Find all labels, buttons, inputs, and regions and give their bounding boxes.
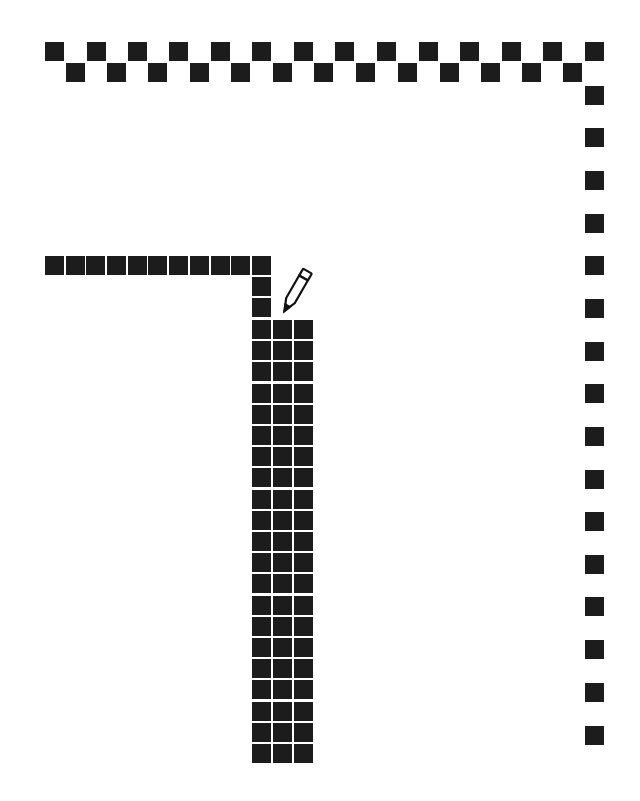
pixel-cell[interactable] <box>231 256 250 275</box>
pixel-cell[interactable] <box>211 42 230 61</box>
pixel-cell[interactable] <box>294 320 313 339</box>
pixel-cell[interactable] <box>273 490 292 509</box>
pixel-cell[interactable] <box>231 63 250 82</box>
pixel-cell[interactable] <box>252 532 271 551</box>
pixel-cell[interactable] <box>252 680 271 699</box>
pixel-cell[interactable] <box>294 553 313 572</box>
pixel-cell[interactable] <box>294 617 313 636</box>
pixel-cell[interactable] <box>273 553 292 572</box>
pixel-cell[interactable] <box>273 723 292 742</box>
pixel-cell[interactable] <box>294 511 313 530</box>
pixel-cell[interactable] <box>585 427 604 446</box>
pixel-cell[interactable] <box>45 42 64 61</box>
pixel-cell[interactable] <box>543 42 562 61</box>
pixel-cell[interactable] <box>273 532 292 551</box>
pixel-cell[interactable] <box>252 447 271 466</box>
pixel-cell[interactable] <box>252 468 271 487</box>
drawing-canvas[interactable] <box>0 0 640 801</box>
pixel-cell[interactable] <box>585 299 604 318</box>
pixel-cell[interactable] <box>294 405 313 424</box>
pixel-cell[interactable] <box>87 42 106 61</box>
pixel-cell[interactable] <box>294 42 313 61</box>
pixel-cell[interactable] <box>252 723 271 742</box>
pixel-cell[interactable] <box>294 638 313 657</box>
pixel-cell[interactable] <box>294 596 313 615</box>
pixel-cell[interactable] <box>273 617 292 636</box>
pixel-cell[interactable] <box>252 744 271 763</box>
pixel-cell[interactable] <box>148 63 167 82</box>
pixel-cell[interactable] <box>252 490 271 509</box>
pixel-cell[interactable] <box>252 702 271 721</box>
pixel-cell[interactable] <box>128 256 147 275</box>
pixel-cell[interactable] <box>252 384 271 403</box>
pixel-cell[interactable] <box>252 320 271 339</box>
pixel-cell[interactable] <box>273 63 292 82</box>
pixel-cell[interactable] <box>335 42 354 61</box>
pixel-cell[interactable] <box>252 553 271 572</box>
pixel-cell[interactable] <box>377 42 396 61</box>
pixel-cell[interactable] <box>294 362 313 381</box>
pixel-cell[interactable] <box>314 63 333 82</box>
pixel-cell[interactable] <box>190 256 209 275</box>
pixel-cell[interactable] <box>273 362 292 381</box>
pixel-cell[interactable] <box>294 702 313 721</box>
pixel-cell[interactable] <box>273 341 292 360</box>
pixel-cell[interactable] <box>294 447 313 466</box>
pixel-cell[interactable] <box>86 256 105 275</box>
pixel-cell[interactable] <box>273 384 292 403</box>
pixel-cell[interactable] <box>585 512 604 531</box>
pixel-cell[interactable] <box>273 744 292 763</box>
pixel-cell[interactable] <box>294 574 313 593</box>
pixel-cell[interactable] <box>273 680 292 699</box>
pixel-cell[interactable] <box>148 256 167 275</box>
pixel-cell[interactable] <box>107 63 126 82</box>
pixel-cell[interactable] <box>273 468 292 487</box>
pixel-cell[interactable] <box>252 426 271 445</box>
pixel-cell[interactable] <box>294 341 313 360</box>
pixel-cell[interactable] <box>252 256 271 275</box>
pixel-cell[interactable] <box>169 42 188 61</box>
pixel-cell[interactable] <box>585 256 604 275</box>
pixel-cell[interactable] <box>273 405 292 424</box>
pixel-cell[interactable] <box>563 63 582 82</box>
pixel-cell[interactable] <box>294 384 313 403</box>
pixel-cell[interactable] <box>356 63 375 82</box>
pixel-cell[interactable] <box>440 63 459 82</box>
pixel-cell[interactable] <box>252 511 271 530</box>
pixel-cell[interactable] <box>460 42 479 61</box>
pixel-cell[interactable] <box>252 617 271 636</box>
pixel-cell[interactable] <box>252 362 271 381</box>
pixel-cell[interactable] <box>585 384 604 403</box>
pixel-cell[interactable] <box>294 490 313 509</box>
pixel-cell[interactable] <box>294 426 313 445</box>
pixel-cell[interactable] <box>585 342 604 361</box>
pixel-cell[interactable] <box>585 171 604 190</box>
pixel-cell[interactable] <box>252 596 271 615</box>
pixel-cell[interactable] <box>273 638 292 657</box>
pixel-cell[interactable] <box>294 659 313 678</box>
pixel-cell[interactable] <box>419 42 438 61</box>
pixel-cell[interactable] <box>66 256 85 275</box>
pixel-cell[interactable] <box>252 277 271 296</box>
pixel-cell[interactable] <box>273 574 292 593</box>
pixel-cell[interactable] <box>585 86 604 105</box>
pixel-cell[interactable] <box>252 42 271 61</box>
pixel-cell[interactable] <box>273 511 292 530</box>
pixel-cell[interactable] <box>585 42 604 61</box>
pixel-cell[interactable] <box>585 470 604 489</box>
pixel-cell[interactable] <box>585 597 604 616</box>
pixel-cell[interactable] <box>294 744 313 763</box>
pixel-cell[interactable] <box>294 680 313 699</box>
pixel-cell[interactable] <box>128 42 147 61</box>
pixel-cell[interactable] <box>585 128 604 147</box>
pixel-cell[interactable] <box>585 555 604 574</box>
pixel-cell[interactable] <box>481 63 500 82</box>
pixel-cell[interactable] <box>294 468 313 487</box>
pixel-cell[interactable] <box>273 702 292 721</box>
pixel-cell[interactable] <box>585 683 604 702</box>
pixel-cell[interactable] <box>252 405 271 424</box>
pixel-cell[interactable] <box>169 256 188 275</box>
pixel-cell[interactable] <box>522 63 541 82</box>
pixel-cell[interactable] <box>273 659 292 678</box>
pixel-cell[interactable] <box>252 574 271 593</box>
